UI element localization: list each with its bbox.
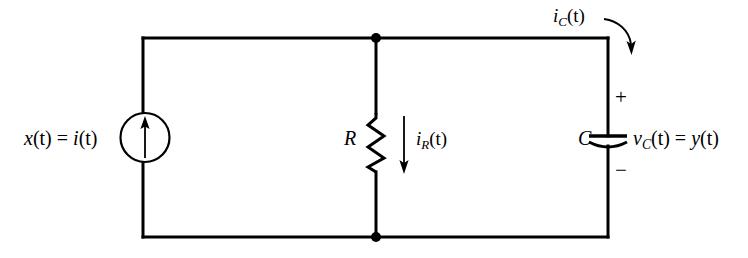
- resistor-current-arrow: [399, 116, 408, 174]
- capacitor-current-label-sub: C: [558, 14, 567, 29]
- source-label: x(t) = i(t): [24, 128, 98, 148]
- source-label-t2: (t): [79, 127, 98, 149]
- circuit-diagram-canvas: x(t) = i(t) R iR(t) iC(t) C vC(t) = y(t)…: [0, 0, 748, 258]
- source-label-eq: =: [52, 127, 73, 149]
- capacitor-current-label-t: (t): [567, 5, 585, 26]
- capacitor-voltage-label-t2: (t): [700, 127, 719, 149]
- resistor-current-label: iR(t): [416, 129, 447, 152]
- capacitor-label: C: [578, 128, 591, 148]
- polarity-plus-sign: +: [615, 87, 627, 108]
- capacitor-current-label: iC(t): [553, 6, 585, 29]
- node-dot-bottom: [371, 232, 381, 242]
- source-label-t1: (t): [33, 127, 52, 149]
- resistor-current-label-t: (t): [429, 128, 447, 149]
- source-label-x: x: [24, 127, 33, 149]
- polarity-minus-sign: −: [615, 160, 627, 181]
- capacitor-voltage-label-v: v: [633, 127, 642, 149]
- capacitor-voltage-label: vC(t) = y(t): [633, 128, 719, 151]
- resistor-zigzag: [368, 113, 384, 172]
- capacitor-voltage-label-y: y: [691, 127, 700, 149]
- capacitor-voltage-label-eq: =: [670, 127, 691, 149]
- capacitor-voltage-label-t1: (t): [651, 127, 670, 149]
- resistor-label: R: [344, 128, 356, 148]
- capacitor-voltage-label-sub: C: [642, 137, 651, 152]
- current-source-symbol: [121, 113, 170, 162]
- node-dot-top: [371, 33, 381, 43]
- resistor-current-label-sub: R: [421, 137, 429, 152]
